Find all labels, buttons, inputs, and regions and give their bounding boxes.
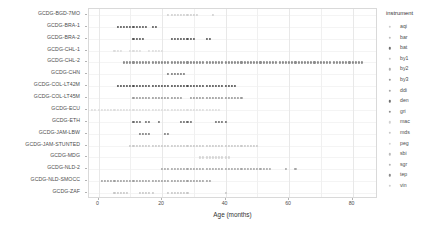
legend-item-mac[interactable]: mac — [386, 117, 444, 127]
data-point — [231, 145, 233, 147]
data-point — [148, 121, 150, 123]
data-point — [250, 61, 252, 63]
data-point — [199, 156, 201, 158]
data-point — [136, 121, 138, 123]
legend-item-ddi[interactable]: ddi — [386, 86, 444, 96]
legend-marker-icon — [389, 164, 391, 166]
data-point — [136, 26, 138, 28]
data-point — [247, 168, 249, 170]
legend-item-sgr[interactable]: sgr — [386, 160, 444, 170]
data-point — [186, 121, 188, 123]
legend-item-by3[interactable]: by3 — [386, 75, 444, 85]
data-point — [339, 61, 341, 63]
data-point — [323, 61, 325, 63]
data-point — [294, 168, 296, 170]
data-point — [136, 109, 138, 111]
data-point — [129, 145, 131, 147]
data-point — [209, 145, 211, 147]
legend-item-by2[interactable]: by2 — [386, 64, 444, 74]
data-point — [190, 168, 192, 170]
data-point — [228, 156, 230, 158]
data-point — [272, 61, 274, 63]
data-point — [205, 85, 207, 87]
data-point — [202, 145, 204, 147]
data-point — [136, 38, 138, 40]
data-point — [136, 97, 138, 99]
legend-marker-icon — [389, 89, 391, 91]
legend-item-label: sgr — [400, 162, 407, 167]
data-point — [196, 168, 198, 170]
data-point — [348, 61, 350, 63]
legend-item-label: mds — [400, 130, 410, 135]
grid-line-vertical — [99, 9, 100, 197]
data-point — [107, 109, 109, 111]
data-point — [136, 85, 138, 87]
data-point — [161, 61, 163, 63]
data-point — [180, 145, 182, 147]
grid-line-vertical-minor — [130, 9, 131, 197]
legend-item-label: mac — [400, 120, 410, 125]
y-axis-tick-label: GCDG-NLD-2 — [47, 166, 80, 171]
data-point — [136, 145, 138, 147]
data-point — [139, 38, 141, 40]
data-point — [123, 192, 125, 194]
data-point — [221, 97, 223, 99]
data-point — [148, 85, 150, 87]
legend-marker-icon — [389, 111, 391, 113]
legend-item-sbi[interactable]: sbi — [386, 149, 444, 159]
data-point — [151, 109, 153, 111]
legend-item-tep[interactable]: tep — [386, 170, 444, 180]
data-point — [183, 145, 185, 147]
legend-marker-icon — [389, 79, 391, 81]
legend-item-peg[interactable]: peg — [386, 139, 444, 149]
data-point — [190, 14, 192, 16]
data-point — [113, 50, 115, 52]
data-point — [180, 180, 182, 182]
x-axis-tick-label: 20 — [158, 201, 164, 206]
legend-item-gri[interactable]: gri — [386, 107, 444, 117]
data-point — [129, 61, 131, 63]
data-point — [171, 145, 173, 147]
data-point — [174, 145, 176, 147]
data-point — [205, 180, 207, 182]
y-axis-tick-label: GCDG-CHL-1 — [47, 47, 80, 52]
data-point — [317, 61, 319, 63]
data-point — [202, 97, 204, 99]
data-point — [190, 38, 192, 40]
data-point — [196, 180, 198, 182]
legend-item-label: aqi — [400, 24, 407, 29]
data-point — [148, 61, 150, 63]
y-axis-tick-mark — [85, 50, 87, 51]
legend-item-by1[interactable]: by1 — [386, 54, 444, 64]
legend-item-vin[interactable]: vin — [386, 181, 444, 191]
data-point — [148, 192, 150, 194]
legend-item-bar[interactable]: bar — [386, 33, 444, 43]
data-point — [136, 61, 138, 63]
data-point — [231, 61, 233, 63]
legend-item-mds[interactable]: mds — [386, 128, 444, 138]
y-axis-tick-label: GCDG-BRA-2 — [47, 35, 80, 40]
data-point — [167, 133, 169, 135]
data-point — [126, 180, 128, 182]
data-point — [174, 14, 176, 16]
data-point — [117, 50, 119, 52]
legend-item-aqi[interactable]: aqi — [386, 22, 444, 32]
data-point — [123, 180, 125, 182]
data-point — [132, 180, 134, 182]
y-axis-tick-label: GCDG-ETH — [52, 118, 80, 123]
data-point — [199, 145, 201, 147]
data-point — [240, 145, 242, 147]
data-point — [218, 85, 220, 87]
legend-item-den[interactable]: den — [386, 96, 444, 106]
data-point — [256, 168, 258, 170]
data-point — [256, 61, 258, 63]
data-point — [139, 145, 141, 147]
data-point — [190, 97, 192, 99]
data-point — [139, 85, 141, 87]
data-point — [158, 109, 160, 111]
legend-marker-icon — [389, 132, 391, 134]
data-point — [139, 121, 141, 123]
data-point — [215, 121, 217, 123]
legend-item-bat[interactable]: bat — [386, 43, 444, 53]
data-point — [145, 192, 147, 194]
